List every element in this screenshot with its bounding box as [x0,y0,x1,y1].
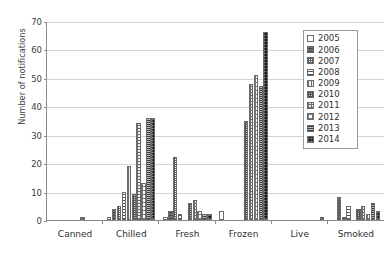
bar-fresh-2014 [207,214,211,220]
bar-live-2014 [320,217,324,220]
y-tick-label: 40 [31,102,42,112]
legend-item-2009[interactable]: 2009 [307,78,354,89]
x-tick-mark [327,220,328,224]
y-axis-title: Number of notifications [18,0,27,157]
bar-chilled-2010 [132,194,136,220]
x-tick-label-canned: Canned [58,229,92,239]
bar-fresh-2013 [202,214,206,220]
legend-swatch-icon-2007 [307,57,314,64]
legend-swatch-icon-2005 [307,35,314,42]
legend-label: 2007 [318,57,340,66]
y-tick-label: 30 [31,131,42,141]
y-tick-label: 20 [31,159,42,169]
bar-chilled-2006 [112,209,116,220]
y-tick-label: 10 [31,188,42,198]
legend-item-2014[interactable]: 2014 [307,134,354,145]
bar-chilled-2008 [122,192,126,220]
legend-label: 2009 [318,79,340,88]
legend-swatch-icon-2013 [307,125,314,132]
legend-swatch-icon-2014 [307,136,314,143]
x-tick-label-fresh: Fresh [175,229,199,239]
legend-label: 2014 [318,135,340,144]
bar-group-chilled: Chilled [103,22,159,220]
y-tick-mark [44,221,47,222]
x-tick-label-live: Live [291,229,309,239]
bar-fresh-2008 [178,214,182,220]
legend-item-2008[interactable]: 2008 [307,67,354,78]
bar-frozen-2010 [244,121,248,221]
bar-frozen-2013 [259,86,263,220]
bar-fresh-2006 [168,211,172,220]
bar-group-fresh: Fresh [159,22,215,220]
bar-chilled-2007 [117,206,121,220]
x-tick-mark [158,220,159,224]
bar-group-frozen: Frozen [216,22,272,220]
y-tick-label: 60 [31,45,42,55]
bar-chilled-2005 [107,217,111,220]
legend-item-2010[interactable]: 2010 [307,89,354,100]
legend-swatch-icon-2006 [307,46,314,53]
x-tick-mark [102,220,103,224]
bar-smoked-2008 [346,206,350,220]
bar-fresh-2005 [163,217,167,220]
legend-label: 2011 [318,101,340,110]
bar-canned-2011 [80,217,84,220]
legend-item-2005[interactable]: 2005 [307,33,354,44]
bar-frozen-2005 [219,211,223,220]
legend-label: 2006 [318,46,340,55]
bar-frozen-2011 [249,84,253,220]
bar-group-canned: Canned [47,22,103,220]
bar-fresh-2010 [188,203,192,220]
bar-chilled-2011 [136,123,140,220]
legend-label: 2013 [318,124,340,133]
legend-swatch-icon-2010 [307,91,314,98]
bar-smoked-2013 [371,203,375,220]
legend-swatch-icon-2011 [307,102,314,109]
legend: 2005200620072008200920102011201220132014 [303,30,358,149]
legend-swatch-icon-2012 [307,113,314,120]
legend-swatch-icon-2008 [307,69,314,76]
legend-item-2012[interactable]: 2012 [307,111,354,122]
x-tick-label-chilled: Chilled [116,229,147,239]
bar-smoked-2012 [366,214,370,220]
legend-label: 2005 [318,34,340,43]
bar-smoked-2007 [342,217,346,220]
bar-fresh-2011 [193,200,197,220]
x-tick-label-smoked: Smoked [338,229,374,239]
bar-chilled-2014 [151,118,155,220]
bar-smoked-2011 [361,206,365,220]
legend-label: 2012 [318,113,340,122]
legend-item-2007[interactable]: 2007 [307,55,354,66]
bar-smoked-2010 [356,209,360,220]
legend-label: 2008 [318,68,340,77]
bar-fresh-2007 [173,157,177,220]
bar-chart: Number of notifications 010203040506070 … [0,0,392,256]
bar-chilled-2013 [146,118,150,220]
legend-item-2011[interactable]: 2011 [307,100,354,111]
bar-chilled-2009 [127,166,131,220]
x-tick-label-frozen: Frozen [229,229,259,239]
x-tick-mark [215,220,216,224]
x-tick-mark [271,220,272,224]
bar-frozen-2012 [254,75,258,220]
y-tick-label: 0 [37,216,42,226]
bar-frozen-2014 [263,32,267,220]
legend-item-2013[interactable]: 2013 [307,123,354,134]
bar-smoked-2014 [376,211,380,220]
y-tick-label: 70 [31,17,42,27]
legend-swatch-icon-2009 [307,80,314,87]
y-tick-label: 50 [31,74,42,84]
legend-label: 2010 [318,90,340,99]
bar-fresh-2012 [197,211,201,220]
bar-chilled-2012 [141,183,145,220]
bar-smoked-2006 [337,197,341,220]
legend-item-2006[interactable]: 2006 [307,44,354,55]
